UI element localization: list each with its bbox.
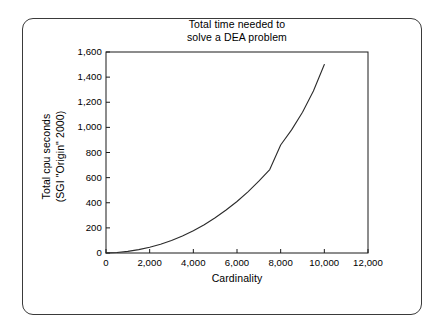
chart-plot-area: Total time needed to solve a DEA problem… xyxy=(0,0,444,334)
figure-root: Total time needed to solve a DEA problem… xyxy=(0,0,444,334)
x-tick-label: 12,000 xyxy=(353,258,383,268)
y-axis-title: Total cpu seconds (SGI "Origin" 2000) xyxy=(40,57,67,257)
x-tick-label: 10,000 xyxy=(309,258,339,268)
y-tick-label: 1,600 xyxy=(40,47,102,57)
y-axis-ticks xyxy=(106,52,110,253)
x-tick-label: 0 xyxy=(103,258,108,268)
x-axis-ticks xyxy=(106,249,368,253)
plot-frame xyxy=(106,52,368,253)
x-tick-label: 4,000 xyxy=(181,258,206,268)
x-tick-label: 8,000 xyxy=(268,258,293,268)
x-tick-label: 2,000 xyxy=(137,258,162,268)
x-axis-title: Cardinality xyxy=(106,272,368,284)
data-series-line xyxy=(106,65,324,253)
x-tick-label: 6,000 xyxy=(225,258,250,268)
